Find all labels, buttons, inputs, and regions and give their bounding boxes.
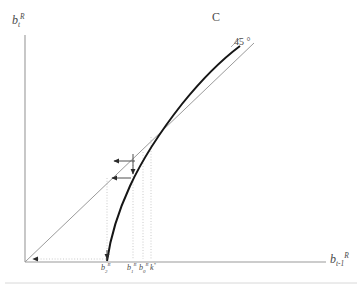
tick-b0-sup: R <box>145 262 148 267</box>
policy-curve-c <box>107 46 240 261</box>
tick-kstar-sup: * <box>154 262 156 267</box>
tick-b2-sub: 2 <box>105 269 107 274</box>
tick-label-b1: b1R <box>127 264 137 272</box>
identity-line-45 <box>25 43 254 262</box>
phase-diagram-figure: btR bt-1R C 45 ° b2R b1R b0R k* <box>0 0 362 291</box>
y-axis-label-sup: R <box>20 12 25 21</box>
x-axis-label: bt-1R <box>330 253 349 265</box>
tick-label-b2: b2R <box>101 264 111 272</box>
x-axis-label-sup: R <box>344 251 349 260</box>
diagram-canvas <box>0 0 362 291</box>
vertical-guides <box>107 137 151 259</box>
tick-b1-sub: 1 <box>131 269 133 274</box>
tick-b1-sup: R <box>133 262 136 267</box>
curve-label-c: C <box>212 11 220 23</box>
tick-label-kstar: k* <box>150 264 156 272</box>
tick-b0-sub: 0 <box>143 269 145 274</box>
tick-label-b0: b0R <box>139 264 149 272</box>
y-axis-label: btR <box>12 14 25 26</box>
x-axis-label-sub: t-1 <box>336 259 344 268</box>
y-axis-label-sub: t <box>18 20 20 29</box>
angle-label-45deg: 45 ° <box>234 37 251 47</box>
tick-b2-sup: R <box>107 262 110 267</box>
